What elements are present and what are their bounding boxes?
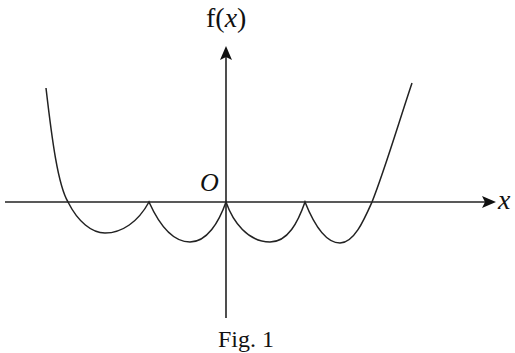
origin-label: O [200,168,219,198]
figure-caption: Fig. 1 [218,326,274,353]
y-axis-label-var: x [225,2,237,33]
y-axis-label-prefix: f( [206,2,225,33]
x-axis-label: x [498,184,510,216]
y-axis-label-suffix: ) [237,2,246,33]
function-curve [46,83,412,243]
y-axis-label: f(x) [206,2,246,34]
